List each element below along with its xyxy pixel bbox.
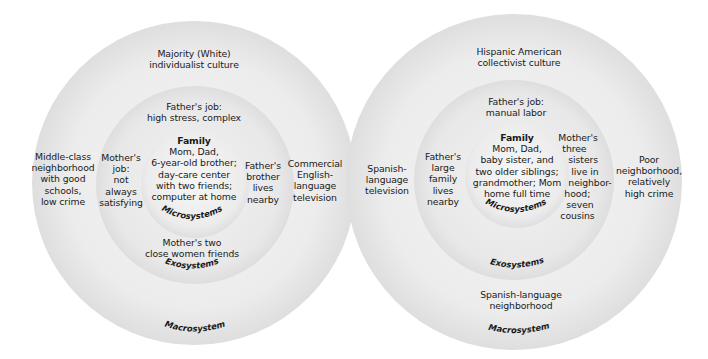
diagram-majority: Majority (White) individualist culture M… — [0, 0, 354, 359]
svg-text:Microsystems: Microsystems — [160, 203, 224, 221]
svg-text:Microsystems: Microsystems — [484, 196, 548, 214]
diagram-hispanic: Hispanic American collectivist culture S… — [354, 0, 708, 359]
